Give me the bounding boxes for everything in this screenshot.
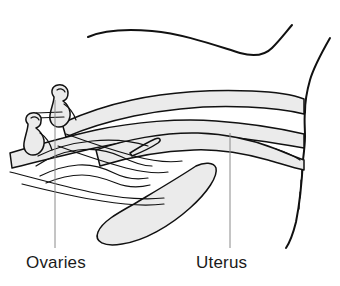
ligament-sweep-1 <box>10 172 164 199</box>
dorsal-body-contour <box>88 25 292 55</box>
anatomy-illustration: Ovaries Uterus <box>0 0 340 286</box>
posterior-body-wall <box>305 38 330 112</box>
label-ovaries: Ovaries <box>26 253 86 272</box>
posterior-body-wall-lower <box>286 160 303 248</box>
anatomical-figure: Ovaries Uterus <box>0 0 340 286</box>
label-uterus: Uterus <box>196 253 247 272</box>
bladder <box>97 163 216 245</box>
